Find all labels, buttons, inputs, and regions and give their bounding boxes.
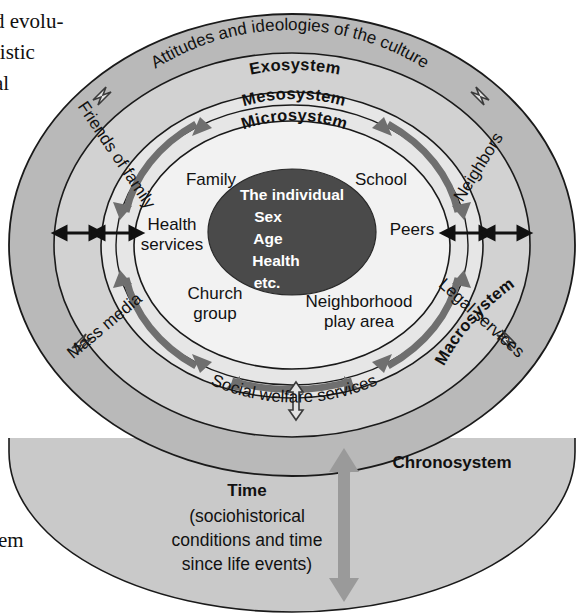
microsystem-school-label: School: [355, 170, 407, 189]
time-detail-line: since life events): [182, 554, 312, 574]
microsystem-neighborhood-label: Neighborhood: [306, 292, 413, 311]
individual-line: etc.: [254, 274, 281, 291]
microsystem-health-services-label: services: [141, 235, 203, 254]
chronosystem-label: Chronosystem: [392, 453, 511, 472]
microsystem-church-group-label: group: [193, 304, 236, 323]
diagram-canvas: Attitudes and ideologies of the culture …: [0, 0, 585, 615]
microsystem-peers-label: Peers: [390, 220, 434, 239]
individual-line: The individual: [240, 186, 344, 203]
microsystem-family-label: Family: [186, 170, 237, 189]
time-detail-line: (sociohistorical: [189, 506, 305, 526]
microsystem-church-label: Church: [188, 284, 243, 303]
individual-line: Health: [252, 252, 299, 269]
time-label: Time: [227, 481, 266, 500]
individual-line: Sex: [254, 208, 282, 225]
microsystem-health-label: Health: [147, 215, 196, 234]
microsystem-play-area-label: play area: [324, 312, 394, 331]
individual-core: The individual Sex Age Health etc.: [208, 169, 376, 295]
time-detail-line: conditions and time: [172, 530, 323, 550]
individual-line: Age: [253, 230, 283, 247]
ecological-systems-diagram: d evolu- listic al it stem: [0, 0, 585, 615]
